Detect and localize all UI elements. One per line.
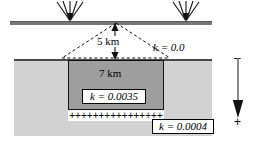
depth-axis-positive-sign: + <box>234 116 241 128</box>
unsaturated-zone-k-label: k = 0.0 <box>153 42 185 53</box>
constant-head-boundary-row: ++++++++++++++++ <box>68 110 164 121</box>
source-block-k-label: k = 0.0035 <box>82 89 146 104</box>
hydrogeology-cross-section-figure: ++++++++++++++++ 5 km 7 km k = 0.0 k = 0… <box>0 0 254 144</box>
depth-label: 5 km <box>96 36 120 47</box>
recharge-arrow-right-icon <box>172 1 200 23</box>
width-label: 7 km <box>97 68 123 79</box>
aquifer-k-label: k = 0.0004 <box>152 119 214 134</box>
recharge-arrow-left-icon <box>56 1 84 23</box>
